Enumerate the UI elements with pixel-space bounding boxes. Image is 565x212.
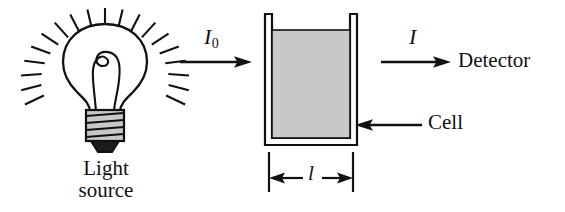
transmitted-intensity-label: I bbox=[409, 26, 416, 49]
sample-cell-cuvette bbox=[265, 14, 357, 145]
incident-intensity-subscript: 0 bbox=[212, 36, 219, 51]
path-length-label: l bbox=[308, 163, 314, 185]
cell-label: Cell bbox=[428, 112, 463, 134]
detector-label: Detector bbox=[458, 50, 530, 72]
bulb-glass-icon bbox=[63, 24, 147, 112]
light-source-label: Light source bbox=[47, 158, 165, 202]
incident-beam-arrow bbox=[180, 56, 252, 68]
bulb-screw-base-icon bbox=[86, 110, 124, 152]
incident-intensity-label: I0 bbox=[204, 26, 219, 51]
cell-callout-arrow bbox=[355, 119, 422, 131]
incident-intensity-symbol: I bbox=[204, 24, 211, 49]
light-source-label-line2: source bbox=[47, 180, 165, 202]
light-source-label-line1: Light bbox=[47, 158, 165, 180]
absorption-spectroscopy-diagram: I0 I Detector Cell l Light source bbox=[0, 0, 565, 212]
transmitted-beam-arrow bbox=[381, 56, 451, 68]
